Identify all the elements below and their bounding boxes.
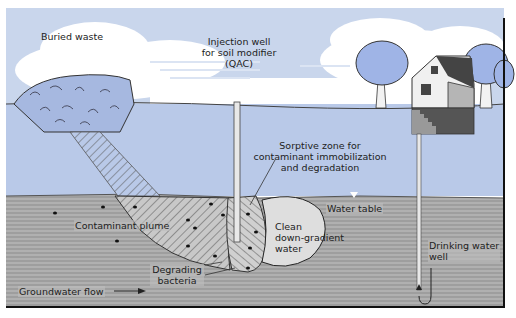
water-table-label: Water table [326, 203, 383, 214]
drinking-line1: Drinking water [429, 240, 499, 251]
sorptive-zone-line2: contaminant immobilization [250, 151, 390, 162]
degrading-line2: bacteria [151, 275, 203, 286]
injection-well-label: Injection well for soil modifier (QAC) [200, 36, 278, 69]
sorptive-zone-line3: and degradation [250, 162, 390, 173]
injection-well-line2: for soil modifier [200, 47, 278, 58]
injection-well-line3: (QAC) [200, 58, 278, 69]
drinking-water-label: Drinking water well [428, 240, 500, 262]
degrading-line1: Degrading [151, 264, 203, 275]
drinking-water-well [417, 134, 421, 290]
sorptive-zone [227, 196, 267, 272]
sorptive-zone-label: Sorptive zone for contaminant immobiliza… [250, 140, 390, 173]
clean-line1: Clean [275, 221, 344, 232]
buried-waste-label: Buried waste [41, 31, 103, 42]
groundwater-flow-label: Groundwater flow [18, 286, 105, 297]
clean-line2: down-gradient [275, 232, 344, 243]
sorptive-zone-line1: Sorptive zone for [250, 140, 390, 151]
degrading-bacteria-label: Degrading bacteria [150, 264, 204, 286]
injection-well-line1: Injection well [200, 36, 278, 47]
injection-well [234, 102, 240, 242]
drinking-line2: well [429, 251, 499, 262]
contaminant-plume-label: Contaminant plume [74, 220, 170, 231]
clean-water-label: Clean down-gradient water [275, 221, 344, 254]
clean-line3: water [275, 243, 344, 254]
